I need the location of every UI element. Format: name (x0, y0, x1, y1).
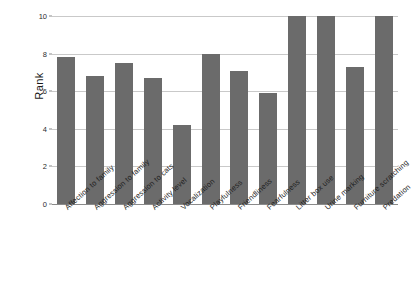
y-tick-label: 6 (43, 87, 47, 96)
y-tick-label: 4 (43, 124, 47, 133)
y-tick-label: 8 (43, 49, 47, 58)
x-axis-labels: Affection to familyAggression to familyA… (52, 205, 398, 282)
y-tick-label: 2 (43, 162, 47, 171)
bar-slot (283, 16, 312, 204)
bar-slot (225, 16, 254, 204)
bar[interactable] (288, 16, 306, 204)
y-tick-label: 0 (43, 200, 47, 209)
bar[interactable] (57, 57, 75, 204)
y-tick-label: 10 (39, 12, 47, 21)
bar-slot (52, 16, 81, 204)
